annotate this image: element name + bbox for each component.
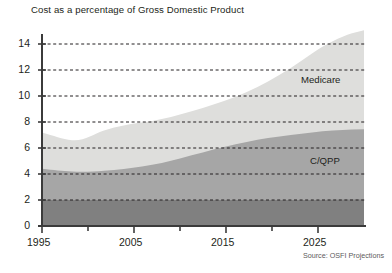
gdp-cost-stacked-area-chart: Cost as a percentage of Gross Domestic P… bbox=[0, 0, 392, 273]
series-label-cqpp: C/QPP bbox=[310, 155, 340, 166]
x-tick-label-2005: 2005 bbox=[119, 236, 142, 248]
y-tick-label-6: 6 bbox=[8, 141, 30, 153]
area-base bbox=[42, 199, 364, 226]
y-tick-label-4: 4 bbox=[8, 167, 30, 179]
x-tick-label-1995: 1995 bbox=[27, 236, 50, 248]
y-tick-label-8: 8 bbox=[8, 115, 30, 127]
series-label-medicare: Medicare bbox=[301, 74, 340, 85]
y-tick-label-2: 2 bbox=[8, 193, 30, 205]
chart-plot-area bbox=[0, 0, 392, 273]
y-tick-label-12: 12 bbox=[8, 63, 30, 75]
y-tick-label-14: 14 bbox=[8, 37, 30, 49]
x-tick-label-2025: 2025 bbox=[303, 236, 326, 248]
x-tick-label-2015: 2015 bbox=[211, 236, 234, 248]
y-tick-label-0: 0 bbox=[8, 219, 30, 231]
source-note: Source: OSFI Projections bbox=[303, 251, 384, 260]
y-tick-label-10: 10 bbox=[8, 89, 30, 101]
